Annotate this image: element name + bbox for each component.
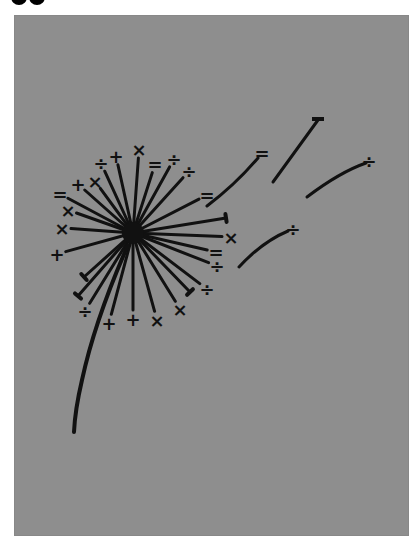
- divide-symbol: ÷: [199, 279, 214, 300]
- plus-symbol: +: [101, 313, 116, 334]
- equals-symbol: =: [147, 154, 162, 175]
- plus-symbol: +: [108, 146, 123, 167]
- seed-stroke-divide-upper: [307, 163, 366, 197]
- times-symbol: ×: [54, 218, 69, 239]
- divide-symbol: ÷: [77, 301, 92, 322]
- ray-cap: [225, 214, 226, 222]
- times-symbol: ×: [131, 139, 146, 160]
- times-symbol: ×: [149, 310, 164, 331]
- seed-stroke-divide-lower: [239, 231, 288, 267]
- dandelion-math-symbols-illustration: ×+÷=÷÷+×==××+×=÷÷××++÷ =÷÷: [0, 0, 418, 555]
- burst-center: [122, 222, 144, 244]
- plus-symbol: +: [70, 174, 85, 195]
- divide-symbol: ÷: [181, 161, 196, 182]
- seed-symbols: =÷÷: [254, 119, 376, 240]
- equals-symbol: =: [199, 185, 214, 206]
- divide-symbol: ÷: [209, 256, 224, 277]
- plus-symbol: +: [49, 244, 64, 265]
- times-symbol: ×: [223, 227, 238, 248]
- seed-stroke-dash: [273, 120, 318, 182]
- times-symbol: ×: [172, 299, 187, 320]
- divide-symbol: ÷: [166, 149, 181, 170]
- plus-symbol: +: [125, 309, 140, 330]
- divide-symbol: ÷: [361, 151, 376, 172]
- seed-stroke-equals: [207, 158, 258, 206]
- equals-symbol: =: [254, 143, 269, 164]
- ray: [133, 233, 175, 301]
- divide-symbol: ÷: [285, 219, 300, 240]
- times-symbol: ×: [87, 171, 102, 192]
